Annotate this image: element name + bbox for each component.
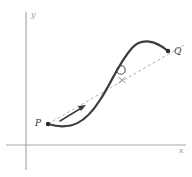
figure-canvas: y x P Q	[0, 0, 192, 177]
secant-line	[48, 44, 186, 124]
point-q-dot	[166, 49, 170, 53]
point-p-dot	[46, 122, 50, 126]
direction-arrow	[60, 105, 86, 121]
point-q-label: Q	[174, 46, 182, 56]
y-axis-label: y	[30, 10, 36, 19]
function-curve	[48, 41, 168, 126]
x-axis-label: x	[179, 146, 184, 155]
point-p-label: P	[34, 118, 42, 128]
diagram-svg: y x P Q	[0, 0, 192, 177]
